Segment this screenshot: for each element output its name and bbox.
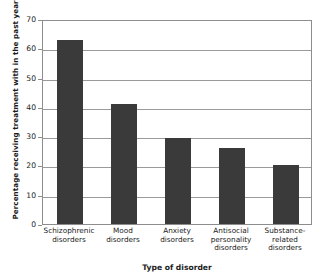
y-tick-label-20: 20 bbox=[2, 163, 36, 171]
x-category-line: disorders bbox=[96, 236, 150, 245]
bar bbox=[111, 104, 137, 224]
y-tick-label-70: 70 bbox=[2, 16, 36, 24]
x-category-line: disorders bbox=[42, 236, 96, 245]
y-tick-label-30: 30 bbox=[2, 133, 36, 141]
x-axis-category-labels: SchizophrenicdisordersMooddisordersAnxie… bbox=[42, 227, 312, 261]
x-category-line: disorders bbox=[150, 236, 204, 245]
gridline-60 bbox=[43, 50, 311, 51]
bar bbox=[219, 148, 245, 224]
x-category-label: Schizophrenicdisorders bbox=[42, 227, 96, 244]
gridline-50 bbox=[43, 80, 311, 81]
gridline-40 bbox=[43, 109, 311, 110]
y-tick-label-60: 60 bbox=[2, 45, 36, 53]
x-category-line: disorders bbox=[258, 244, 312, 253]
bar bbox=[57, 40, 83, 225]
x-category-label: Anxietydisorders bbox=[150, 227, 204, 244]
x-axis-title: Type of disorder bbox=[42, 263, 312, 272]
y-axis-tick-labels: 010203040506070 bbox=[0, 20, 36, 225]
bar bbox=[165, 138, 191, 224]
plot-area bbox=[42, 20, 312, 225]
y-tick-label-10: 10 bbox=[2, 192, 36, 200]
y-tick-label-50: 50 bbox=[2, 75, 36, 83]
x-category-label: Antisocialpersonalitydisorders bbox=[204, 227, 258, 253]
y-tick-label-0: 0 bbox=[2, 221, 36, 229]
x-category-label: Substance-relateddisorders bbox=[258, 227, 312, 253]
y-tick-mark-0 bbox=[38, 225, 42, 226]
bar bbox=[273, 165, 299, 224]
bar-chart-figure: Percentage receiving treatment with in t… bbox=[0, 0, 321, 280]
x-category-line: disorders bbox=[204, 244, 258, 253]
y-tick-label-40: 40 bbox=[2, 104, 36, 112]
x-category-label: Mooddisorders bbox=[96, 227, 150, 244]
